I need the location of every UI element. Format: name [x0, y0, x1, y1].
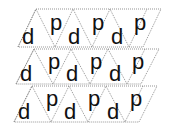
row-3: d p d p d p: [14, 86, 157, 124]
letter-d[interactable]: d: [64, 99, 76, 124]
letter-p[interactable]: p: [132, 49, 144, 74]
letter-p[interactable]: p: [48, 49, 60, 74]
letter-d[interactable]: d: [111, 24, 123, 49]
letter-p[interactable]: p: [130, 86, 142, 111]
row-2: d p d p d p: [16, 49, 159, 86]
letter-d[interactable]: d: [18, 99, 30, 124]
letter-p[interactable]: p: [46, 86, 58, 111]
letter-d[interactable]: d: [22, 24, 34, 49]
letter-p[interactable]: p: [134, 10, 146, 35]
letter-p[interactable]: p: [90, 49, 102, 74]
letter-p[interactable]: p: [50, 10, 62, 35]
letter-d[interactable]: d: [107, 99, 119, 124]
letter-d[interactable]: d: [20, 61, 32, 86]
letter-p[interactable]: p: [88, 86, 100, 111]
row-1: d p d p d p: [18, 9, 161, 49]
letter-d[interactable]: d: [68, 24, 80, 49]
letter-d[interactable]: d: [109, 61, 121, 86]
letter-d[interactable]: d: [66, 61, 78, 86]
triangle-strips: d p d p d p d p d p d p d p d p d p: [0, 0, 169, 131]
letter-p[interactable]: p: [92, 10, 104, 35]
